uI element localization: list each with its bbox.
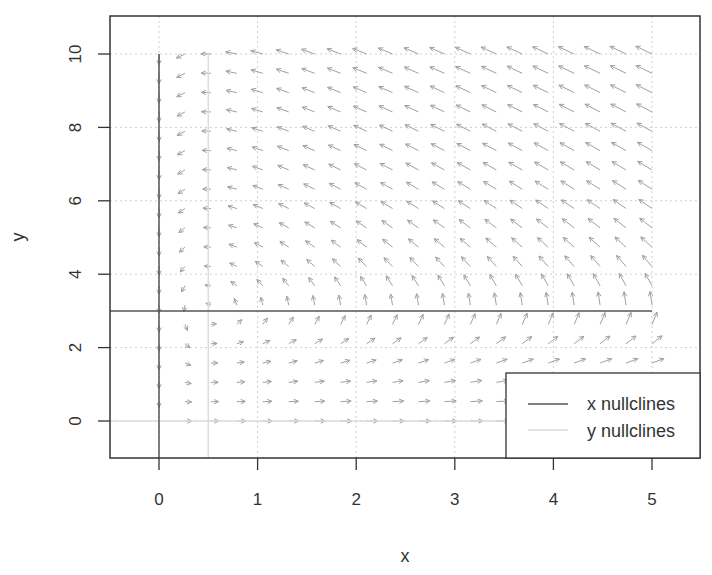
x-tick-label: 5: [647, 490, 656, 509]
y-tick-label: 6: [66, 196, 85, 205]
vector-arrow: [637, 104, 652, 112]
vector-arrowhead: [228, 205, 233, 206]
vector-arrowhead: [252, 108, 257, 109]
vector-arrow: [638, 161, 652, 169]
vector-arrowhead: [212, 322, 217, 324]
vector-arrowhead: [227, 167, 232, 168]
legend: x nullclines y nullclines: [506, 373, 700, 458]
vector-arrow: [537, 238, 548, 248]
y-tick-label: 8: [66, 123, 85, 132]
vector-arrow: [483, 162, 496, 170]
vector-arrowhead: [638, 180, 643, 181]
vector-arrowhead: [251, 88, 256, 89]
vector-arrowhead: [319, 380, 324, 382]
vector-arrow: [559, 104, 574, 112]
y-tick-label: 10: [66, 45, 85, 64]
vector-arrow: [586, 162, 600, 170]
vector-arrow: [561, 181, 574, 189]
vector-arrowhead: [545, 292, 546, 297]
x-tick-label: 0: [154, 490, 163, 509]
vector-arrowhead: [451, 379, 456, 380]
vector-arrowhead: [228, 224, 233, 225]
vector-arrowhead: [458, 201, 463, 202]
vector-arrow: [534, 143, 548, 151]
vector-arrowhead: [502, 359, 507, 360]
vector-arrowhead: [266, 360, 271, 361]
vector-arrow: [612, 181, 626, 190]
vector-arrowhead: [226, 109, 231, 110]
vector-arrowhead: [587, 181, 592, 182]
vector-arrow: [509, 162, 522, 170]
vector-arrowhead: [252, 166, 257, 167]
vector-arrow: [611, 123, 626, 131]
vector-arrowhead: [345, 359, 350, 360]
vector-arrow: [561, 200, 574, 209]
vector-arrow: [587, 200, 600, 209]
vector-arrow: [584, 46, 600, 54]
y-axis-title: y: [8, 233, 28, 242]
vector-arrowhead: [477, 379, 482, 380]
vector-arrow: [585, 85, 600, 93]
x-tick-label: 1: [253, 490, 262, 509]
vector-arrowhead: [441, 293, 442, 298]
vector-arrowhead: [319, 360, 324, 361]
vector-arrowhead: [597, 292, 598, 297]
phase-plane-chart: 012345 0246810 x y x nullclines y nullcl…: [0, 0, 712, 575]
vector-arrowhead: [252, 146, 257, 147]
vector-arrowhead: [648, 292, 649, 297]
vector-field: [157, 46, 666, 423]
y-tick-label: 2: [66, 343, 85, 352]
vector-arrowhead: [277, 88, 282, 89]
vector-arrowhead: [186, 384, 191, 385]
vector-arrow: [509, 181, 522, 189]
vector-arrowhead: [330, 221, 335, 222]
vector-arrowhead: [227, 128, 232, 129]
vector-arrow: [636, 65, 652, 73]
y-tick-label: 4: [66, 269, 85, 278]
vector-arrow: [560, 162, 574, 170]
vector-arrow: [610, 85, 626, 93]
vector-arrowhead: [240, 360, 245, 361]
vector-arrowhead: [484, 200, 489, 201]
vector-arrowhead: [251, 69, 256, 70]
vector-arrowhead: [476, 359, 481, 360]
vector-arrow: [559, 85, 574, 93]
vector-arrowhead: [493, 293, 494, 298]
vector-arrowhead: [519, 293, 520, 298]
vector-arrow: [642, 255, 652, 266]
legend-label-x-nullclines: x nullclines: [587, 394, 675, 414]
vector-arrowhead: [346, 379, 351, 380]
vector-arrow: [563, 237, 574, 247]
vector-arrow: [587, 181, 600, 189]
vector-arrowhead: [450, 359, 455, 360]
vector-arrowhead: [433, 201, 438, 202]
vector-arrow: [612, 162, 626, 170]
vector-arrow: [585, 123, 600, 131]
vector-arrowhead: [371, 359, 376, 360]
vector-arrow: [610, 46, 626, 54]
vector-arrowhead: [528, 359, 533, 360]
vector-arrow: [533, 104, 548, 111]
x-tick-label: 2: [351, 490, 360, 509]
vector-arrow: [615, 237, 626, 247]
vector-arrow: [612, 142, 627, 150]
vector-arrow: [560, 143, 574, 151]
vector-arrow: [613, 200, 626, 209]
x-tick-label: 3: [450, 490, 459, 509]
vector-arrow: [535, 162, 549, 170]
vector-arrow: [611, 104, 626, 112]
vector-arrow: [535, 181, 548, 189]
vector-arrowhead: [397, 359, 402, 360]
vector-arrow: [586, 143, 600, 151]
vector-arrowhead: [561, 181, 566, 182]
vector-arrow: [585, 104, 600, 112]
vector-arrow: [636, 46, 652, 54]
vector-arrowhead: [424, 359, 429, 360]
x-axis: 012345: [154, 458, 656, 509]
vector-arrow: [610, 66, 626, 74]
vector-arrow: [637, 123, 652, 131]
vector-arrow: [584, 66, 600, 74]
vector-arrowhead: [226, 70, 231, 71]
vector-arrow: [614, 218, 626, 227]
vector-arrowhead: [623, 292, 624, 297]
